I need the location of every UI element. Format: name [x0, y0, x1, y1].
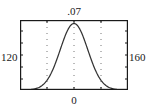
axis-label-right: 160 — [129, 52, 148, 63]
plot-background — [20, 20, 128, 90]
chart-figure: .07 120 160 0 — [0, 0, 148, 111]
axis-label-top: .07 — [0, 6, 148, 17]
plot-area — [20, 20, 128, 90]
plot-svg — [20, 20, 128, 90]
axis-label-left: 120 — [1, 52, 19, 63]
axis-label-bottom: 0 — [0, 95, 148, 106]
